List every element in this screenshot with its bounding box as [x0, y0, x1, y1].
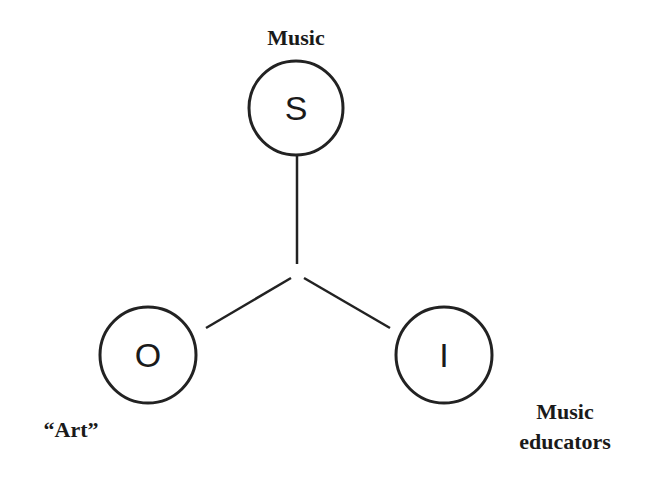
node-s-letter: S: [285, 89, 308, 127]
edge-o-center: [206, 278, 291, 328]
label-art: “Art”: [26, 416, 116, 444]
label-music: Music: [246, 24, 346, 52]
label-music-educators-line2: educators: [500, 428, 630, 456]
label-music-educators-line1: Music: [500, 398, 630, 426]
node-o-letter: O: [135, 336, 161, 374]
node-o: O: [100, 307, 196, 403]
node-i-letter: I: [439, 336, 448, 374]
node-i: I: [396, 307, 492, 403]
node-s: S: [249, 61, 343, 155]
edge-i-center: [304, 278, 390, 328]
